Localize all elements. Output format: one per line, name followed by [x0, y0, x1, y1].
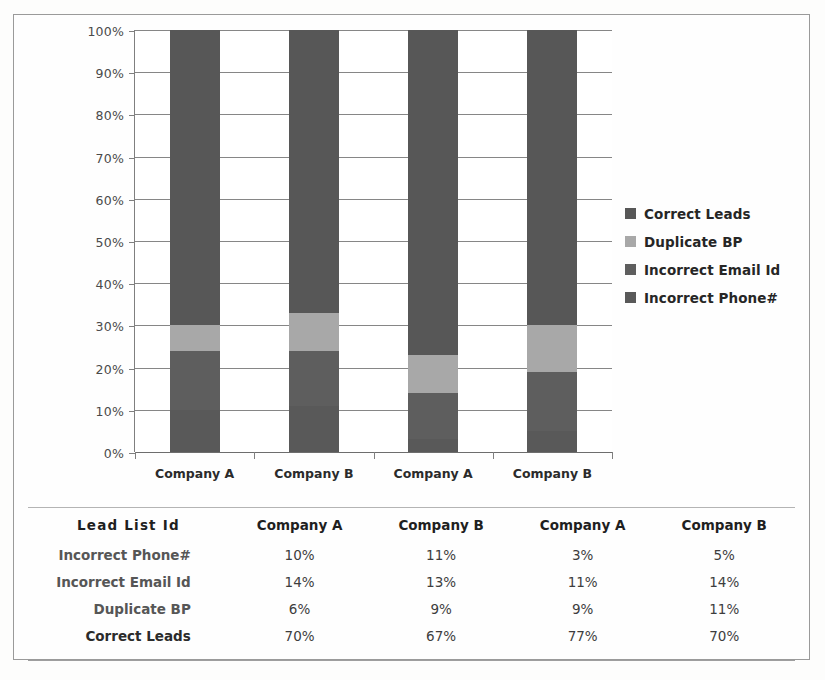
bar-4-segment-3[interactable] — [527, 325, 577, 371]
y-tick-100 — [129, 31, 135, 32]
y-tick-40 — [129, 284, 135, 285]
table-row-label-4: Correct Leads — [28, 622, 229, 649]
table-row-label-1: Incorrect Phone# — [28, 541, 229, 568]
y-axis-label-20: 20% — [96, 361, 124, 376]
legend-item-3[interactable]: Incorrect Email Id — [625, 261, 810, 278]
bar-1-segment-4[interactable] — [170, 30, 220, 325]
table-header-col-2: Company B — [370, 511, 512, 541]
table-cell-r3-c4: 11% — [653, 595, 795, 622]
y-tick-70 — [129, 158, 135, 159]
bar-3-segment-1[interactable] — [408, 439, 458, 452]
y-axis-label-30: 30% — [96, 319, 124, 334]
table-top-rule — [28, 507, 795, 508]
legend-item-2[interactable]: Duplicate BP — [625, 233, 810, 250]
chart-frame-border: 0%10%20%30%40%50%60%70%80%90%100% Compan… — [13, 14, 810, 660]
y-tick-10 — [129, 411, 135, 412]
y-tick-50 — [129, 242, 135, 243]
table-cell-r4-c1: 70% — [229, 622, 371, 649]
table-row: Incorrect Email Id14%13%11%14% — [28, 568, 795, 595]
bar-2-segment-3[interactable] — [289, 313, 339, 351]
table-cell-r4-c2: 67% — [370, 622, 512, 649]
table-body: Incorrect Phone#10%11%3%5%Incorrect Emai… — [28, 541, 795, 649]
table-row: Incorrect Phone#10%11%3%5% — [28, 541, 795, 568]
table-cell-r3-c2: 9% — [370, 595, 512, 622]
x-tick-0 — [135, 452, 136, 459]
table-header: Lead List Id Company A Company B Company… — [28, 511, 795, 541]
bar-4-segment-2[interactable] — [527, 372, 577, 431]
table-bottom-rule — [28, 660, 795, 661]
table-cell-r2-c2: 13% — [370, 568, 512, 595]
legend-swatch-icon-2 — [625, 236, 636, 247]
y-axis-label-50: 50% — [96, 235, 124, 250]
table-cell-r3-c1: 6% — [229, 595, 371, 622]
bar-2-segment-4[interactable] — [289, 30, 339, 313]
table-cell-r1-c3: 3% — [512, 541, 654, 568]
chart-legend: Correct LeadsDuplicate BPIncorrect Email… — [625, 205, 810, 317]
stacked-bar-chart: 0%10%20%30%40%50%60%70%80%90%100% Compan… — [14, 15, 809, 485]
table-cell-r2-c1: 14% — [229, 568, 371, 595]
legend-label-3: Incorrect Email Id — [644, 262, 780, 278]
bar-1-segment-2[interactable] — [170, 351, 220, 410]
x-tick-2 — [374, 452, 375, 459]
bar-3-segment-4[interactable] — [408, 30, 458, 355]
table-cell-r2-c3: 11% — [512, 568, 654, 595]
x-tick-1 — [254, 452, 255, 459]
bar-4[interactable] — [527, 30, 577, 452]
legend-item-4[interactable]: Incorrect Phone# — [625, 289, 810, 306]
table-header-col-1: Company A — [229, 511, 371, 541]
legend-label-2: Duplicate BP — [644, 234, 743, 250]
data-table: Lead List Id Company A Company B Company… — [28, 511, 795, 649]
legend-label-4: Incorrect Phone# — [644, 290, 778, 306]
legend-label-1: Correct Leads — [644, 206, 751, 222]
bar-2-segment-1[interactable] — [289, 406, 339, 452]
y-tick-80 — [129, 115, 135, 116]
table-header-row: Lead List Id Company A Company B Company… — [28, 511, 795, 541]
table-cell-r4-c4: 70% — [653, 622, 795, 649]
legend-item-1[interactable]: Correct Leads — [625, 205, 810, 222]
y-tick-60 — [129, 200, 135, 201]
y-axis-label-40: 40% — [96, 277, 124, 292]
y-axis-label-70: 70% — [96, 150, 124, 165]
y-axis-label-80: 80% — [96, 108, 124, 123]
y-axis-label-10: 10% — [96, 403, 124, 418]
bar-2-segment-2[interactable] — [289, 351, 339, 406]
y-axis-label-0: 0% — [104, 446, 124, 461]
table-cell-r1-c1: 10% — [229, 541, 371, 568]
table-cell-r1-c4: 5% — [653, 541, 795, 568]
plot-area: 0%10%20%30%40%50%60%70%80%90%100% Compan… — [134, 30, 612, 452]
bar-4-segment-4[interactable] — [527, 30, 577, 325]
bar-3-segment-2[interactable] — [408, 393, 458, 439]
table-cell-r3-c3: 9% — [512, 595, 654, 622]
table-row: Duplicate BP6%9%9%11% — [28, 595, 795, 622]
bar-1[interactable] — [170, 30, 220, 452]
bar-3-segment-3[interactable] — [408, 355, 458, 393]
legend-swatch-icon-1 — [625, 208, 636, 219]
y-axis-label-90: 90% — [96, 66, 124, 81]
table-header-col-3: Company A — [512, 511, 654, 541]
x-tick-3 — [493, 452, 494, 459]
table-row: Correct Leads70%67%77%70% — [28, 622, 795, 649]
data-table-container: Lead List Id Company A Company B Company… — [28, 511, 795, 649]
y-tick-90 — [129, 73, 135, 74]
table-row-label-2: Incorrect Email Id — [28, 568, 229, 595]
table-header-col-4: Company B — [653, 511, 795, 541]
bar-4-segment-1[interactable] — [527, 431, 577, 452]
table-cell-r1-c2: 11% — [370, 541, 512, 568]
legend-swatch-icon-4 — [625, 292, 636, 303]
bar-1-segment-1[interactable] — [170, 410, 220, 452]
y-axis-label-100: 100% — [87, 24, 124, 39]
legend-swatch-icon-3 — [625, 264, 636, 275]
page-canvas: 0%10%20%30%40%50%60%70%80%90%100% Compan… — [0, 0, 825, 680]
bar-1-segment-3[interactable] — [170, 325, 220, 350]
bar-3[interactable] — [408, 30, 458, 452]
y-tick-20 — [129, 369, 135, 370]
table-row-label-3: Duplicate BP — [28, 595, 229, 622]
bar-2[interactable] — [289, 30, 339, 452]
y-tick-30 — [129, 326, 135, 327]
table-cell-r2-c4: 14% — [653, 568, 795, 595]
x-axis-label-4: Company B — [482, 466, 622, 481]
table-cell-r4-c3: 77% — [512, 622, 654, 649]
x-tick-end — [612, 452, 613, 459]
y-axis-label-60: 60% — [96, 192, 124, 207]
table-header-lead-list-id: Lead List Id — [28, 511, 229, 541]
